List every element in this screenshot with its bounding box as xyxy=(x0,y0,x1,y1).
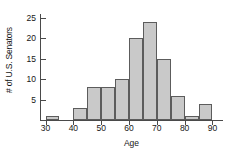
y-axis-tick-label: 10 xyxy=(20,75,36,84)
histogram-bar xyxy=(157,59,171,120)
x-axis-tick-label: 30 xyxy=(36,124,56,133)
histogram-bar xyxy=(185,116,199,120)
y-axis-title-text: # of U.S. Senators xyxy=(4,27,14,93)
x-axis-tick-label: 40 xyxy=(63,124,83,133)
y-axis-tick-mark xyxy=(41,100,46,101)
histogram-chart: # of U.S. Senators 510152025 30405060708… xyxy=(0,0,229,162)
x-axis-tick-label: 50 xyxy=(91,124,111,133)
x-axis-tick-label: 90 xyxy=(202,124,222,133)
y-axis-title: # of U.S. Senators xyxy=(0,0,18,120)
histogram-bar xyxy=(101,87,115,120)
histogram-bar xyxy=(73,108,87,120)
y-axis-tick-labels: 510152025 xyxy=(18,0,36,122)
histogram-bar xyxy=(87,87,101,120)
histogram-bar xyxy=(129,38,143,120)
x-axis-tick-label: 80 xyxy=(175,124,195,133)
y-axis-tick-label: 20 xyxy=(20,34,36,43)
y-axis-line xyxy=(40,14,41,120)
y-axis-tick-label: 5 xyxy=(20,96,36,105)
y-axis-tick-label: 15 xyxy=(20,55,36,64)
histogram-bar xyxy=(199,104,213,120)
plot-area xyxy=(40,14,218,120)
y-axis-tick-mark xyxy=(41,59,46,60)
y-axis-tick-mark xyxy=(41,79,46,80)
x-axis-line xyxy=(40,120,223,121)
histogram-bar xyxy=(143,22,157,120)
y-axis-tick-label: 25 xyxy=(20,14,36,23)
x-axis-tick-label: 70 xyxy=(147,124,167,133)
x-axis-tick-labels: 30405060708090 xyxy=(40,124,223,136)
y-axis-tick-mark xyxy=(41,38,46,39)
histogram-bar xyxy=(171,96,185,120)
y-axis-tick-mark xyxy=(41,18,46,19)
histogram-bar xyxy=(115,79,129,120)
histogram-bar xyxy=(46,116,60,120)
x-axis-tick-label: 60 xyxy=(119,124,139,133)
x-axis-title: Age xyxy=(40,138,223,148)
